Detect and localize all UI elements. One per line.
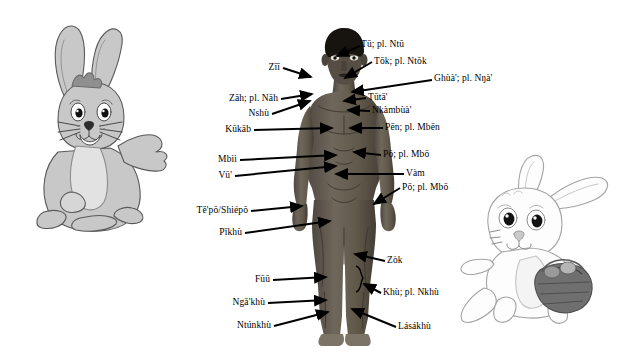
label-khu: Khù; pl. Nkhù [383,288,439,298]
label-tok: Tōk; pl. Ntōk [374,57,427,67]
grey-rabbit-waving-illustration [14,14,186,236]
label-tu: Tū; pl. Ntū [361,40,404,50]
label-po-2: Pō; pl. Mbō [402,183,448,193]
label-pen: Pēn; pl. Mbēn [385,123,440,133]
white-rabbit-running-with-basket-illustration [452,152,628,324]
label-ghua: Ghùà'; pl. Nŋà' [434,74,492,84]
label-zok: Zòk [387,256,403,266]
label-zii: Zīī [269,63,280,73]
label-vu: Vū' [218,171,232,181]
label-lasakhu: Lásákhù [398,322,431,332]
label-kukab: Kūkāb [225,125,251,135]
label-tepo: Tě'pō/Shiépō [197,206,248,216]
diagram-page: Tū; pl. Ntū Tōk; pl. Ntōk Ghùà'; pl. Nŋà… [0,0,632,355]
label-vam: Vàm [406,169,425,179]
label-zah: Zāh; pl. Nāh [229,94,278,104]
label-nkambua: Nkàmbùà' [372,106,411,116]
human-body-front-view-illustration [288,28,400,350]
label-po-1: Pō; pl. Mbō [383,150,429,160]
label-ntunkhu: Ntúnkhù [237,321,271,331]
label-fuu: Fūū [255,275,270,285]
label-ngakhu: Ngǎ'khù [233,298,266,308]
label-pikhu: Pǐkhù [219,228,242,238]
label-nshu: Nshù [249,109,269,119]
label-mbii: Mbìì [218,155,237,165]
label-tuta: Tūtā' [368,93,388,103]
